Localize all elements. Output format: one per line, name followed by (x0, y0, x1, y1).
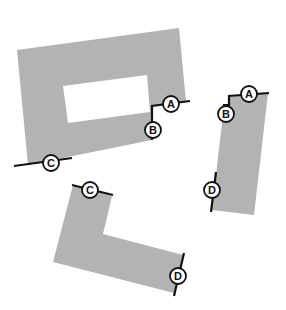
svg-text:D: D (208, 184, 216, 196)
svg-text:C: C (86, 184, 94, 196)
marker-frame-b: B (145, 122, 161, 138)
marker-l-d: D (170, 268, 186, 284)
marker-frame-c: C (43, 155, 59, 171)
marker-frame-a: A (163, 96, 179, 112)
frame-piece (17, 28, 186, 165)
svg-text:D: D (174, 270, 182, 282)
diagram-canvas: A B C A B D C D (0, 0, 286, 310)
svg-text:B: B (149, 124, 157, 136)
marker-l-c: C (82, 182, 98, 198)
svg-text:B: B (222, 108, 230, 120)
marker-bar-a: A (241, 86, 257, 102)
svg-text:A: A (167, 98, 175, 110)
svg-text:C: C (47, 157, 55, 169)
l-shape-piece (53, 185, 183, 293)
marker-bar-d: D (204, 182, 220, 198)
svg-text:A: A (245, 88, 253, 100)
marker-bar-b: B (218, 106, 234, 122)
